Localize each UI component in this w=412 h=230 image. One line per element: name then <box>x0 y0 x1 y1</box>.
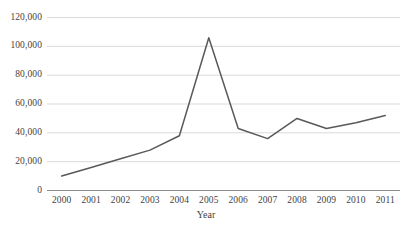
y-tick-label: 20,000 <box>0 157 42 167</box>
y-tick-label: 0 <box>0 186 42 196</box>
y-tick-label: 80,000 <box>0 70 42 80</box>
y-tick-label: 60,000 <box>0 99 42 109</box>
y-tick-label: 120,000 <box>0 13 42 23</box>
x-axis-title: Year <box>0 210 412 220</box>
line-chart: 020,00040,00060,00080,000100,000120,000 … <box>0 0 412 230</box>
data-series-line <box>62 38 386 176</box>
y-tick-label: 100,000 <box>0 41 42 51</box>
y-tick-label: 40,000 <box>0 128 42 138</box>
gridlines <box>47 18 400 162</box>
x-tick-label: 2011 <box>368 196 402 206</box>
